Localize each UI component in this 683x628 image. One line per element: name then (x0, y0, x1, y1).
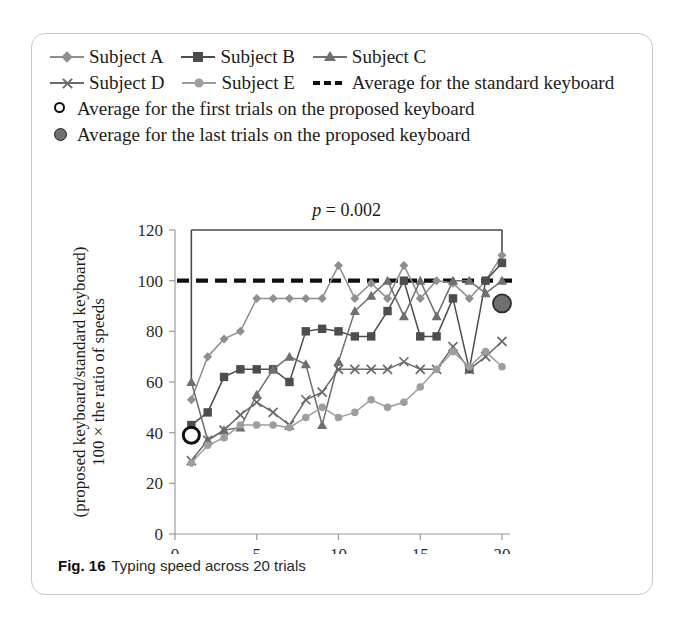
legend-label: Average for the first trials on the prop… (77, 98, 474, 120)
circle-marker (269, 421, 277, 429)
cross-marker (399, 357, 408, 366)
triangle-marker (252, 390, 262, 399)
diamond-marker (318, 294, 327, 303)
square-marker (383, 307, 391, 315)
circle-marker (351, 409, 359, 417)
circle-marker (482, 348, 490, 356)
circle-marker (416, 383, 424, 391)
y-tick-label: 60 (146, 373, 163, 392)
dashed-line-icon (313, 74, 347, 92)
circle-marker (286, 424, 294, 432)
legend-item-subject-c: Subject C (313, 46, 426, 68)
square-marker (498, 259, 506, 267)
y-tick-label: 80 (146, 322, 163, 341)
square-marker (302, 327, 310, 335)
series-subject-c (186, 276, 507, 445)
legend-label: Average for the standard keyboard (352, 72, 614, 94)
y-tick-label: 20 (146, 474, 163, 493)
y-axis-title-line2: (proposed keyboard/standard keyboard) (70, 247, 89, 518)
diamond-marker (285, 294, 294, 303)
triangle-marker-icon (313, 48, 347, 66)
diamond-marker (252, 294, 261, 303)
y-axis-title-line1: 100 × the ratio of speeds (89, 298, 108, 466)
square-marker-icon (181, 48, 215, 66)
triangle-marker (334, 357, 344, 366)
diamond-marker (269, 294, 278, 303)
legend-item-first-trials-average: Average for the first trials on the prop… (50, 98, 474, 120)
open-circle-marker-icon (50, 100, 72, 118)
filled-circle-highlight (493, 294, 511, 312)
triangle-marker (284, 352, 294, 361)
series-subject-e (188, 348, 506, 467)
x-tick-label: 5 (253, 545, 262, 554)
circle-marker-icon (182, 74, 216, 92)
square-marker (285, 378, 293, 386)
circle-marker (466, 363, 474, 371)
triangle-marker (432, 311, 442, 320)
triangle-marker (186, 377, 196, 386)
x-axis-tick-labels: 05101520 (171, 545, 511, 554)
p-value-annotation: p = 0.002 (310, 200, 381, 220)
circle-marker (449, 348, 457, 356)
legend-item-standard-average: Average for the standard keyboard (313, 72, 614, 94)
legend-label: Subject D (89, 72, 164, 94)
legend-item-subject-d: Subject D (50, 72, 164, 94)
circle-marker (433, 366, 441, 374)
x-tick-label: 10 (330, 545, 347, 554)
diamond-marker (399, 261, 408, 270)
square-marker (220, 373, 228, 381)
legend-row: Subject D Subject E Average for the stan… (50, 70, 640, 96)
cross-marker (318, 388, 327, 397)
triangle-marker (301, 359, 311, 368)
y-tick-label: 0 (155, 525, 164, 544)
diamond-marker (236, 327, 245, 336)
triangle-marker (399, 311, 409, 320)
cross-marker-icon (50, 74, 84, 92)
circle-marker (204, 442, 212, 450)
diamond-marker (334, 261, 343, 270)
circle-marker (498, 363, 506, 371)
axis-titles: Number of trials100 × the ratio of speed… (70, 247, 395, 554)
legend-label: Subject A (89, 46, 163, 68)
x-tick-label: 15 (412, 545, 429, 554)
cross-marker (498, 337, 507, 346)
legend-label: Subject C (352, 46, 426, 68)
circle-marker (302, 414, 310, 422)
cross-marker (301, 395, 310, 404)
diamond-marker-icon (50, 48, 84, 66)
cross-marker (236, 410, 245, 419)
square-marker (449, 294, 457, 302)
circle-marker (318, 404, 326, 412)
cross-marker (269, 408, 278, 417)
figure-caption: Fig. 16Typing speed across 20 trials (58, 557, 306, 574)
legend-row: Subject A Subject B Subject C (50, 44, 640, 70)
circle-marker (367, 396, 375, 404)
figure-number: Fig. 16 (58, 557, 106, 574)
square-marker (236, 365, 244, 373)
square-marker (367, 332, 375, 340)
circle-marker (188, 459, 196, 467)
square-marker (481, 276, 489, 284)
chart-legend: Subject A Subject B Subject C (50, 44, 640, 148)
legend-row: Average for the first trials on the prop… (50, 96, 640, 122)
figure-caption-text: Typing speed across 20 trials (112, 557, 306, 574)
y-tick-label: 120 (138, 221, 164, 240)
line-chart: 020406080100120 05101520 Number of trial… (32, 134, 654, 554)
data-series-group (186, 251, 507, 467)
figure-card: Subject A Subject B Subject C (31, 33, 653, 595)
circle-marker (220, 434, 228, 442)
triangle-marker (317, 420, 327, 429)
x-tick-label: 0 (171, 545, 180, 554)
legend-item-subject-b: Subject B (181, 46, 294, 68)
circle-marker (253, 421, 261, 429)
open-circle-highlight (183, 427, 199, 443)
y-axis-tick-labels: 020406080100120 (138, 221, 164, 544)
circle-marker (335, 414, 343, 422)
series-subject-a (187, 251, 507, 404)
y-tick-label: 40 (146, 424, 163, 443)
y-tick-label: 100 (138, 272, 164, 291)
legend-item-subject-a: Subject A (50, 46, 163, 68)
circle-marker (400, 398, 408, 406)
legend-label: Subject E (221, 72, 294, 94)
x-tick-label: 20 (494, 545, 511, 554)
